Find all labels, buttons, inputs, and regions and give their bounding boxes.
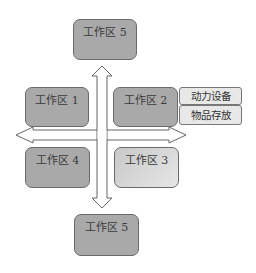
workzone-2-label: 工作区 2 xyxy=(124,94,168,107)
workzone-4: 工作区 4 xyxy=(25,147,90,188)
workzone-3: 工作区 3 xyxy=(114,147,179,188)
workzone-5-bottom-label: 工作区 5 xyxy=(85,221,129,234)
workzone-1-label: 工作区 1 xyxy=(35,94,79,107)
workzone-3-label: 工作区 3 xyxy=(125,154,169,167)
workzone-2: 工作区 2 xyxy=(113,87,178,127)
tag-power-equipment: 动力设备 xyxy=(179,87,242,105)
workzone-5-bottom: 工作区 5 xyxy=(74,214,139,256)
workzone-5-top: 工作区 5 xyxy=(73,19,137,60)
workzone-1: 工作区 1 xyxy=(25,87,89,127)
tag-item-storage: 物品存放 xyxy=(179,105,242,125)
workzone-4-label: 工作区 4 xyxy=(36,154,80,167)
tag-power-equipment-label: 动力设备 xyxy=(191,90,231,102)
workzone-5-top-label: 工作区 5 xyxy=(83,26,127,39)
tag-item-storage-label: 物品存放 xyxy=(191,109,231,121)
